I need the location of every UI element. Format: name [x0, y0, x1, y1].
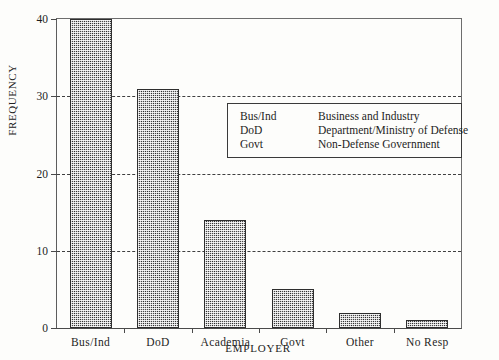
bar — [70, 19, 112, 328]
y-axis-tick — [51, 96, 57, 97]
x-axis-tick — [124, 328, 125, 333]
gridline — [57, 251, 461, 252]
y-axis-tick-label: 0 — [42, 322, 48, 334]
x-axis-tick — [192, 328, 193, 333]
x-axis-tick — [326, 328, 327, 333]
y-axis-tick-label: 20 — [37, 168, 49, 180]
y-axis-tick — [51, 328, 57, 329]
x-axis-tick — [259, 328, 260, 333]
bar — [137, 89, 179, 328]
legend-abbreviation: DoD — [240, 123, 318, 137]
y-axis-tick — [51, 251, 57, 252]
legend-abbreviation: Bus/Ind — [240, 109, 318, 123]
y-axis-tick-label: 40 — [37, 13, 49, 25]
y-axis-tick-label: 30 — [37, 90, 49, 102]
gridline — [57, 174, 461, 175]
bar — [272, 289, 314, 328]
bar — [204, 220, 246, 328]
x-axis-title: EMPLOYER — [56, 342, 460, 354]
legend-box: Bus/Ind Business and Industry DoD Depart… — [227, 103, 462, 158]
y-axis-tick-label: 10 — [37, 245, 49, 257]
y-axis-tick — [51, 174, 57, 175]
legend-row: Bus/Ind Business and Industry — [228, 109, 461, 123]
y-axis-title: FREQUENCY — [6, 40, 18, 160]
gridline — [57, 96, 461, 97]
x-axis-tick — [394, 328, 395, 333]
legend-description: Non-Defense Government — [318, 137, 440, 151]
y-axis-tick — [51, 19, 57, 20]
legend-row: DoD Department/Ministry of Defense — [228, 123, 461, 137]
legend-abbreviation: Govt — [240, 137, 318, 151]
bar — [406, 320, 448, 328]
bar — [339, 313, 381, 328]
legend-description: Business and Industry — [318, 109, 420, 123]
plot-area: 010203040Bus/IndDoDAcademiaGovtOtherNo R… — [56, 18, 462, 329]
bar-chart-figure: FREQUENCY 010203040Bus/IndDoDAcademiaGov… — [0, 0, 499, 360]
legend-row: Govt Non-Defense Government — [228, 137, 461, 151]
legend-description: Department/Ministry of Defense — [318, 123, 468, 137]
